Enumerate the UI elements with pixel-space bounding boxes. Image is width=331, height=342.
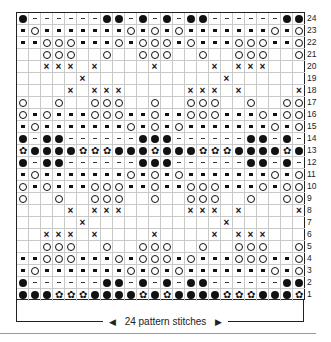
square-icon [33, 41, 37, 44]
chart-cell [173, 49, 185, 61]
row-number: 9 [307, 192, 331, 204]
filled-dot-icon [271, 291, 279, 299]
chart-cell: × [209, 85, 221, 97]
chart-cell [245, 241, 257, 253]
chart-cell [293, 217, 305, 229]
chart-cell [101, 253, 113, 265]
chart-cell [173, 241, 185, 253]
chart-cell [173, 85, 185, 97]
open-circle-icon [235, 39, 243, 47]
square-icon [225, 173, 229, 176]
square-icon [81, 257, 85, 260]
square-icon [57, 29, 61, 32]
filled-dot-icon [19, 135, 27, 143]
open-circle-icon [19, 195, 27, 203]
chart-cell [125, 109, 137, 121]
dash-icon [93, 162, 97, 164]
chart-cell [101, 229, 113, 241]
chart-cell [101, 181, 113, 193]
square-icon [117, 125, 121, 128]
square-icon [141, 113, 145, 116]
chart-cell [77, 205, 89, 217]
open-circle-icon [271, 27, 279, 35]
square-icon [261, 125, 265, 128]
square-icon [225, 41, 229, 44]
chart-cell [17, 253, 29, 265]
open-circle-icon [283, 111, 291, 119]
chart-cell [149, 121, 161, 133]
square-icon [273, 41, 277, 44]
chart-cell [293, 49, 305, 61]
chart-cell [269, 13, 281, 25]
chart-cell [233, 73, 245, 85]
chart-cell: × [185, 85, 197, 97]
chart-cell [125, 193, 137, 205]
chart-cell [65, 109, 77, 121]
open-circle-icon [163, 243, 171, 251]
square-icon [285, 125, 289, 128]
chart-cell [89, 109, 101, 121]
chart-cell [77, 277, 89, 289]
chart-cell [293, 253, 305, 265]
cross-icon: × [68, 230, 74, 240]
chart-cell [89, 265, 101, 277]
open-circle-icon [295, 195, 303, 203]
cross-icon: × [236, 62, 242, 72]
chart-cell [185, 25, 197, 37]
chart-cell [17, 241, 29, 253]
chart-cell [209, 109, 221, 121]
filled-dot-icon [31, 147, 39, 155]
square-icon [105, 257, 109, 260]
filled-dot-icon [19, 15, 27, 23]
chart-cell [197, 25, 209, 37]
chart-cell [113, 13, 125, 25]
chart-cell [233, 37, 245, 49]
chart-cell [137, 121, 149, 133]
open-circle-icon [103, 51, 111, 59]
chart-cell: × [233, 205, 245, 217]
chart-cell [269, 109, 281, 121]
open-circle-icon [103, 111, 111, 119]
chart-cell [245, 205, 257, 217]
chart-cell [257, 49, 269, 61]
flower-icon: ✿ [79, 290, 87, 300]
cross-icon: × [68, 86, 74, 96]
filled-dot-icon [19, 159, 27, 167]
chart-cell [161, 205, 173, 217]
chart-cell [269, 277, 281, 289]
dash-icon [69, 162, 73, 164]
row-number: 20 [307, 60, 331, 72]
chart-cell [137, 133, 149, 145]
cross-icon: × [152, 62, 158, 72]
chart-cell [197, 277, 209, 289]
row-number: 24 [307, 12, 331, 24]
chart-cell [209, 169, 221, 181]
chart-cell [17, 205, 29, 217]
chart-cell [41, 49, 53, 61]
chart-cell [17, 277, 29, 289]
open-circle-icon [103, 243, 111, 251]
filled-dot-icon [283, 159, 291, 167]
row-number: 5 [307, 240, 331, 252]
chart-cell [113, 217, 125, 229]
open-circle-icon [175, 27, 183, 35]
chart-cell [137, 193, 149, 205]
flower-icon: ✿ [163, 290, 171, 300]
chart-cell [281, 205, 293, 217]
filled-dot-icon [139, 147, 147, 155]
chart-cell [53, 37, 65, 49]
dash-icon [225, 18, 229, 20]
chart-cell [245, 97, 257, 109]
chart-cell [245, 109, 257, 121]
chart-cell [173, 133, 185, 145]
chart-cell: × [221, 217, 233, 229]
dash-icon [45, 18, 49, 20]
dash-icon [225, 282, 229, 284]
chart-cell [77, 265, 89, 277]
square-icon [105, 29, 109, 32]
open-circle-icon [43, 183, 51, 191]
chart-cell [17, 229, 29, 241]
square-icon [21, 41, 25, 44]
chart-cell [281, 169, 293, 181]
square-icon [81, 41, 85, 44]
